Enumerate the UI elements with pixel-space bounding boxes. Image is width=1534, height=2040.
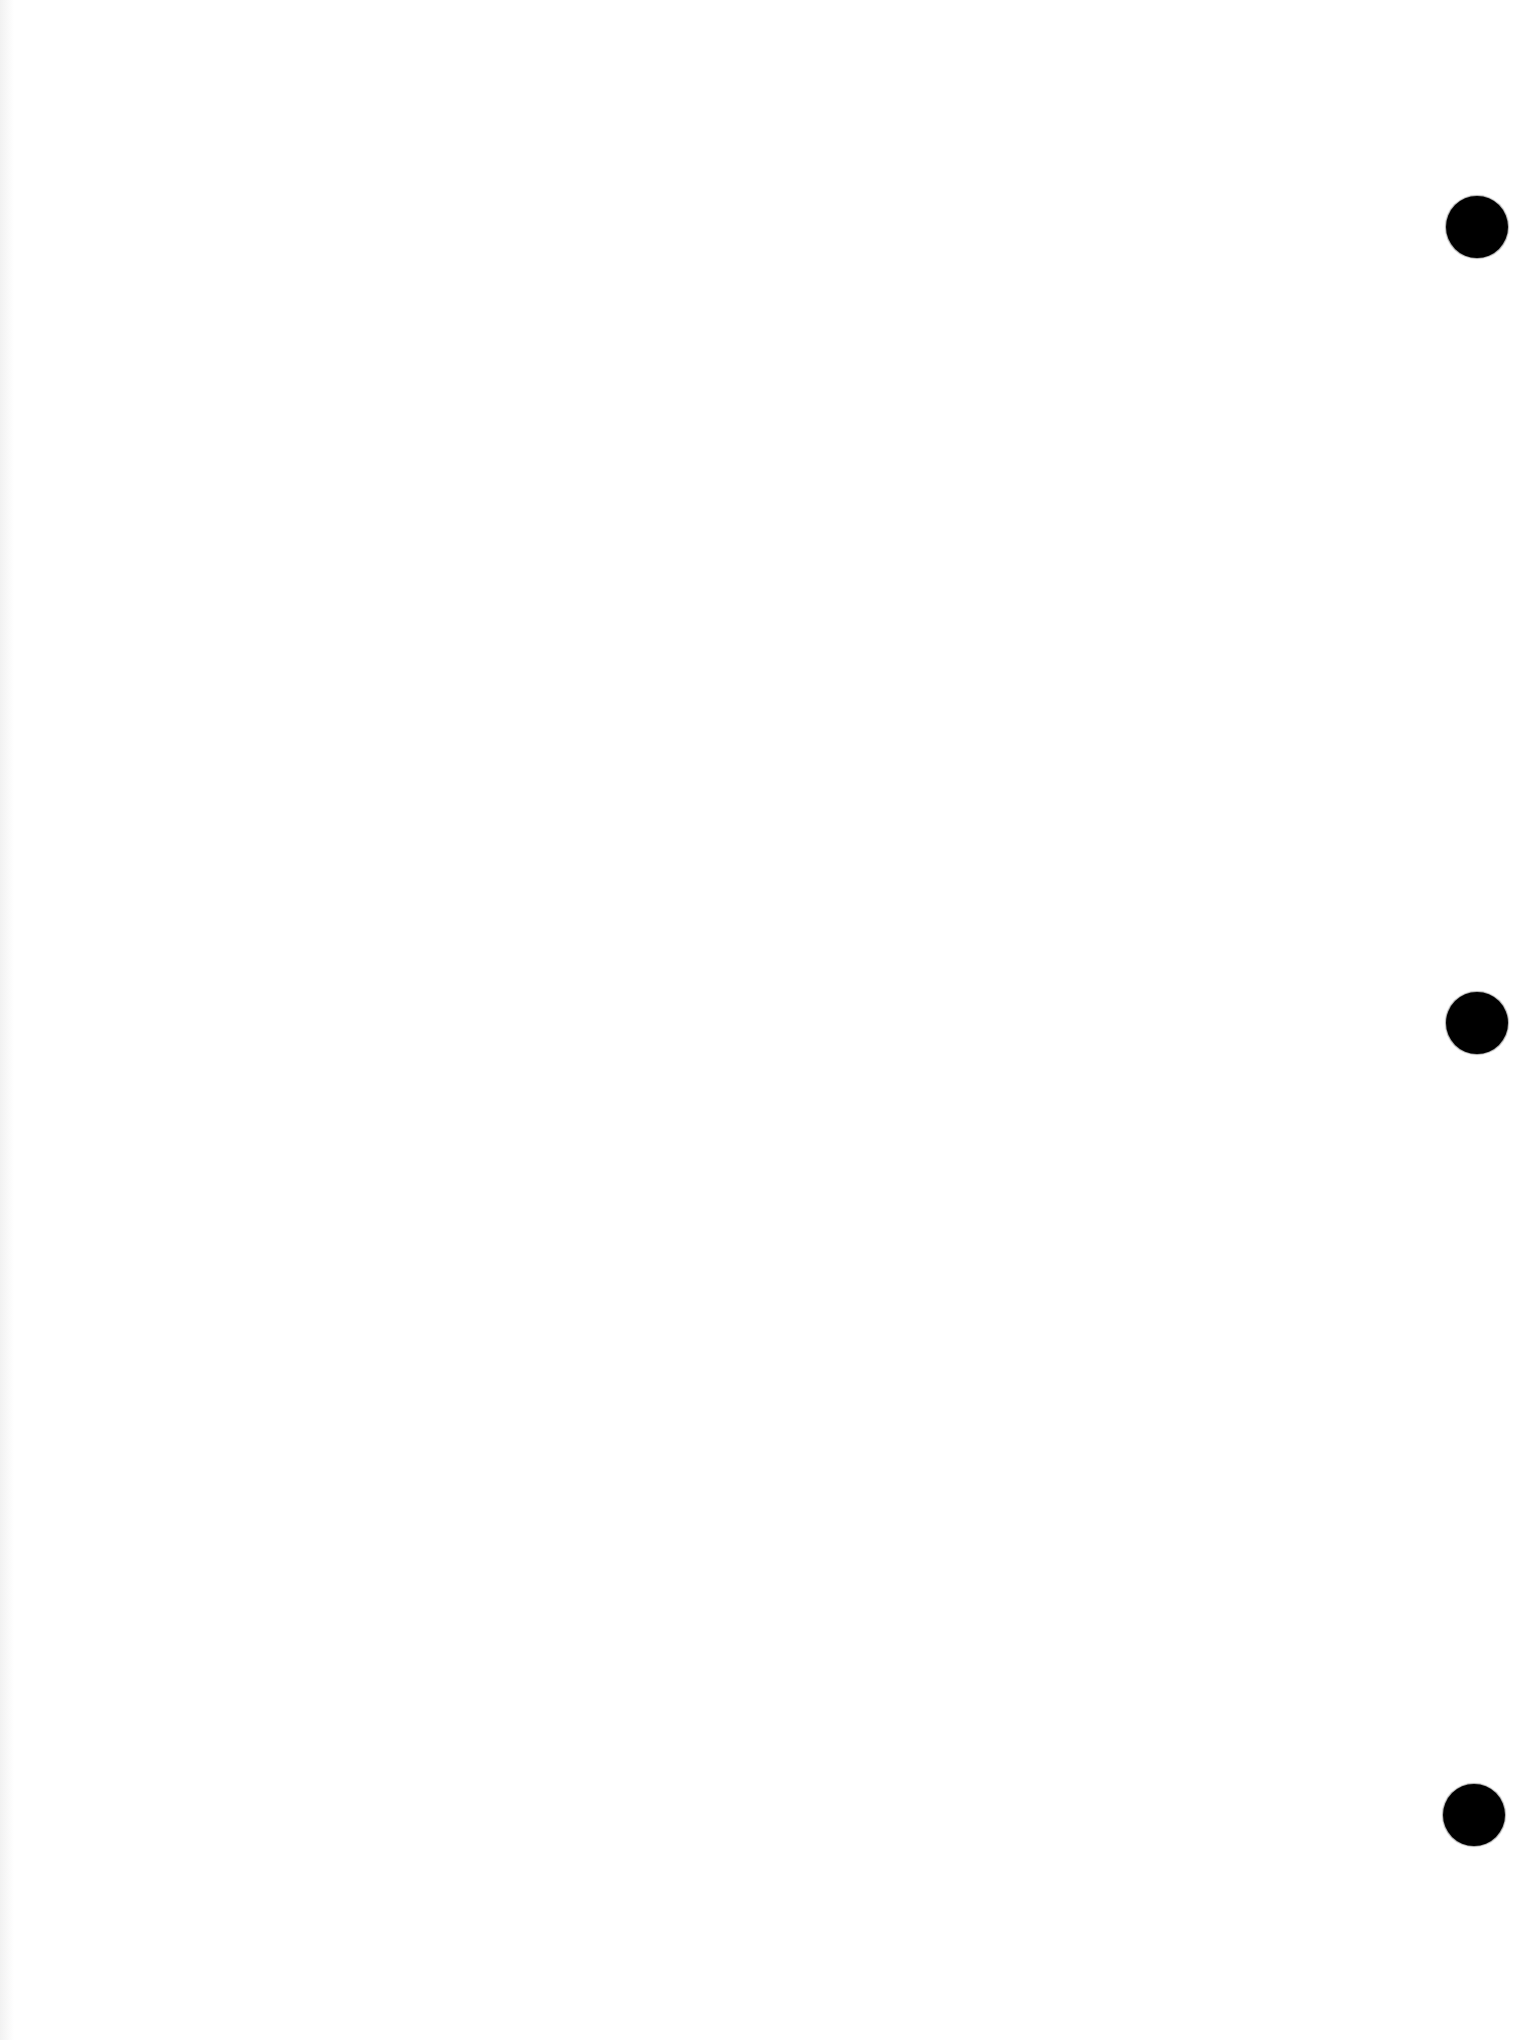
hole-punch-top-icon [1446, 196, 1508, 258]
blank-page [0, 0, 1534, 2040]
hole-punch-middle-icon [1446, 992, 1508, 1054]
hole-punch-bottom-icon [1443, 1784, 1505, 1846]
scan-edge-shadow [0, 0, 14, 2040]
